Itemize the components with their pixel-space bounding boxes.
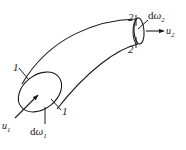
velocity-label-u1-subscript: 1 xyxy=(7,126,11,134)
velocity-label-u1: u1 xyxy=(2,121,11,134)
area-label-domega1: dω1 xyxy=(30,126,47,140)
section-1-upper-tick xyxy=(19,68,29,80)
stream-tube-figure: 1 1 2 2 u1 u2 dω1 dω2 xyxy=(0,0,186,150)
section-label-2-lower: 2 xyxy=(128,44,134,55)
inlet-cross-section-ellipse xyxy=(11,64,70,120)
section-label-1-lower: 1 xyxy=(62,106,68,117)
tube-lower-wall xyxy=(57,44,138,109)
section-label-1-upper: 1 xyxy=(13,62,19,73)
area-label-domega2-subscript: 2 xyxy=(161,16,165,24)
section-label-2-upper: 2 xyxy=(128,12,134,23)
area-label-domega1-subscript: 1 xyxy=(43,132,47,140)
outlet-area-leader-line xyxy=(138,20,148,29)
area-label-domega2: dω2 xyxy=(148,10,165,24)
velocity-label-u2: u2 xyxy=(166,26,175,39)
velocity-label-u2-subscript: 2 xyxy=(171,31,175,39)
